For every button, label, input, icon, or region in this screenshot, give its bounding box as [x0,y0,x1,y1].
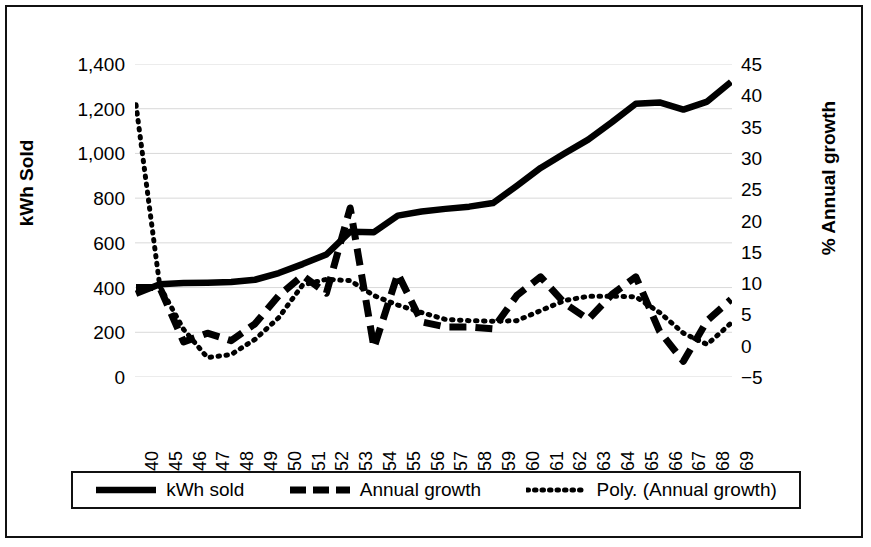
y-axis-left-tick-label: 0 [45,368,125,387]
y-axis-right-tick-label: 20 [741,212,801,231]
legend-label: Poly. (Annual growth) [597,479,777,501]
y-axis-left-tick-label: 400 [45,279,125,298]
legend-swatch-dashed [289,484,351,496]
series-line-kwh-sold [136,82,731,294]
legend-item[interactable]: kWh sold [95,479,244,501]
legend-swatch-dotted [526,484,588,496]
y-axis-left-title: kWh Sold [16,103,38,263]
legend-item[interactable]: Poly. (Annual growth) [526,479,777,501]
y-axis-right-tick-label: 35 [741,118,801,137]
y-axis-left-tick-label: 1,200 [45,100,125,119]
y-axis-right-tick-label: 40 [741,86,801,105]
y-axis-right-title: % Annual growth [818,78,840,278]
y-axis-left-tick-label: 1,400 [45,55,125,74]
y-axis-right-tick-label: 5 [741,305,801,324]
y-axis-right-tick-label: 30 [741,149,801,168]
y-axis-right-tick-label: 0 [741,337,801,356]
y-axis-right-ticks: −5051015202530354045 [741,64,801,377]
chart-legend: kWh soldAnnual growthPoly. (Annual growt… [71,471,801,509]
y-axis-left-tick-label: 1,000 [45,144,125,163]
chart-figure: kWh Sold % Annual growth 02004006008001,… [5,5,863,538]
y-axis-right-tick-label: 10 [741,274,801,293]
legend-label: kWh sold [166,479,244,501]
y-axis-right-tick-label: 25 [741,180,801,199]
chart-canvas [135,64,732,377]
y-axis-right-tick-label: 45 [741,55,801,74]
y-axis-left-ticks: 02004006008001,0001,2001,400 [41,64,125,377]
x-axis-ticks: 1940194519461947194819491950195119521953… [135,379,732,459]
y-axis-right-tick-label: −5 [741,368,801,387]
series-line-poly-annual-growth [136,105,731,358]
legend-item[interactable]: Annual growth [289,479,481,501]
y-axis-left-tick-label: 200 [45,323,125,342]
y-axis-left-tick-label: 600 [45,234,125,253]
plot-area [135,64,732,377]
y-axis-left-tick-label: 800 [45,189,125,208]
legend-swatch-solid [95,484,157,496]
y-axis-right-tick-label: 15 [741,243,801,262]
legend-label: Annual growth [360,479,481,501]
